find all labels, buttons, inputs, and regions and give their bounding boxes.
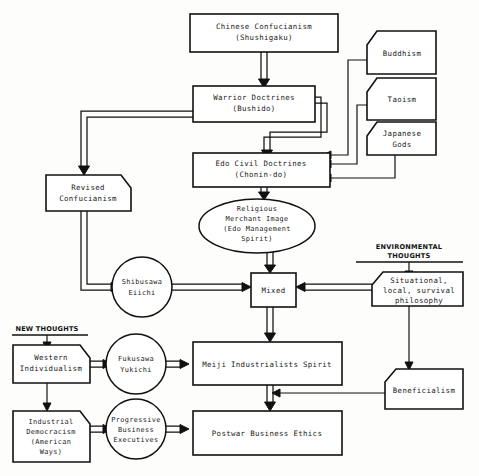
situational-philosophy-line-1: local, survival [383,286,455,295]
node-western-individualism[interactable]: Western Individualism [13,345,90,383]
node-shibusawa-eiichi[interactable]: Shibusawa Eiichi [112,257,172,317]
situational-philosophy-line-2: philosophy [395,296,443,305]
industrial-democracism-line-3: Ways) [40,448,63,456]
edge-beneficialism-to-postwar-business-ethics [272,389,385,397]
chinese-confucianism-line-1: (Shushigaku) [235,33,293,42]
buddhism-label: Buddhism [383,49,422,58]
progressive-business-executives-line-1: Business [118,426,154,434]
node-buddhism[interactable]: Buddhism [367,31,436,74]
edge-japanese-gods-to-edo-civil-doctrines [323,155,395,182]
western-individualism-line-1: Individualism [20,364,83,373]
religious-merchant-image-line-2: (Edo Management [223,225,290,233]
revised-confucianism-line-0: Revised [71,183,105,192]
japanese-gods-line-1: Gods [392,140,411,149]
node-fukusawa-yukichi[interactable]: Fukusawa Yukichi [106,334,166,394]
beneficialism-label: Beneficialism [393,386,456,395]
environmental-thoughts-line2: THOUGHTS [388,252,431,260]
industrial-democracism-line-1: Democracism [26,428,75,436]
edge-fukusawa-yukichi-to-meiji-industrialists-spirit [166,360,189,369]
node-chinese-confucianism[interactable]: Chinese Confucianism (Shushigaku) [190,14,338,52]
node-religious-merchant-image[interactable]: Religious Merchant Image (Edo Management… [199,199,315,253]
node-progressive-business-executives[interactable]: Progressive Business Executives [106,399,166,459]
fukusawa-yukichi-line-1: Yukichi [120,366,152,374]
node-industrial-democracism[interactable]: Industrial Democracism (American Ways) [13,411,90,462]
religious-merchant-image-line-3: Spirit) [241,235,273,243]
mixed-label: Mixed [262,286,286,295]
edge-religious-merchant-image-to-mixed [265,252,276,273]
progressive-business-executives-line-0: Progressive [111,416,160,424]
edge-progressive-business-executives-to-postwar-business-ethics [166,425,189,434]
chinese-confucianism-line-0: Chinese Confucianism [216,22,312,31]
edge-situational-philosophy-to-beneficialism [405,306,413,370]
taoism-label: Taoism [388,95,417,104]
shibusawa-eiichi-line-0: Shibusawa [122,278,163,286]
node-mixed[interactable]: Mixed [251,273,296,307]
edo-civil-doctrines-line-1: (Chonin-do) [235,170,288,179]
revised-confucianism-line-1: Confucianism [59,194,117,203]
edge-edo-civil-doctrines-to-religious-merchant-image [259,187,270,200]
node-postwar-business-ethics[interactable]: Postwar Business Ethics [193,411,342,455]
edge-situational-philosophy-to-mixed [296,283,372,292]
new-thoughts-line1: NEW THOUGHTS [15,325,78,333]
node-meiji-industrialists-spirit[interactable]: Meiji Industrialists Spirit [193,342,342,385]
japanese-gods-line-0: Japanese [383,129,422,138]
meiji-industrialists-spirit-label: Meiji Industrialists Spirit [202,360,332,369]
node-warrior-doctrines[interactable]: Warrior Doctrines (Bushido) [193,86,315,122]
edge-warrior-doctrines-to-revised-confucianism [79,111,194,175]
industrial-democracism-line-2: (American [31,438,72,446]
node-situational-philosophy[interactable]: Situational, local, survival philosophy [372,272,463,306]
edge-chinese-confucianism-to-warrior-doctrines [259,52,270,88]
node-japanese-gods[interactable]: Japanese Gods [367,122,436,155]
religious-merchant-image-line-0: Religious [237,205,278,213]
edge-mixed-to-meiji-industrialists-spirit [265,307,276,342]
node-taoism[interactable]: Taoism [367,78,436,120]
node-revised-confucianism[interactable]: Revised Confucianism [46,175,131,211]
edge-shibusawa-eiichi-to-mixed [172,283,251,292]
situational-philosophy-line-0: Situational, [390,276,448,285]
edo-civil-doctrines-line-0: Edo Civil Doctrines [215,159,306,168]
fukusawa-yukichi-line-0: Fukusawa [118,355,154,363]
edge-western-individualism-to-industrial-democracism [43,383,51,411]
postwar-business-ethics-label: Postwar Business Ethics [212,429,322,438]
shibusawa-eiichi-line-1: Eiichi [129,289,156,297]
edge-meiji-industrialists-spirit-to-postwar-business-ethics [265,385,276,411]
flowchart-diagram: ENVIRONMENTAL THOUGHTS NEW THOUGHTS Chin… [0,0,479,476]
node-beneficialism[interactable]: Beneficialism [385,369,463,409]
edge-buddhism-to-edo-civil-doctrines [323,60,367,159]
environmental-thoughts-line1: ENVIRONMENTAL [376,243,443,251]
progressive-business-executives-line-2: Executives [114,436,159,444]
western-individualism-line-0: Western [34,353,68,362]
industrial-democracism-line-0: Industrial [29,418,74,426]
warrior-doctrines-line-0: Warrior Doctrines [213,93,295,102]
religious-merchant-image-line-1: Merchant Image [226,215,289,223]
node-edo-civil-doctrines[interactable]: Edo Civil Doctrines (Chonin-do) [193,153,330,187]
warrior-doctrines-line-1: (Bushido) [232,104,275,113]
